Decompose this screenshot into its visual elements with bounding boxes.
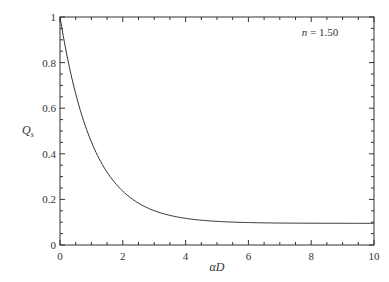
svg-text:0.8: 0.8 (42, 57, 56, 69)
svg-text:8: 8 (308, 250, 314, 262)
chart: 024681000.20.40.60.81 αD Qs n = 1.50 (0, 0, 389, 282)
svg-text:0: 0 (51, 239, 57, 251)
svg-text:6: 6 (246, 250, 252, 262)
svg-text:10: 10 (369, 250, 381, 262)
tick-labels: 024681000.20.40.60.81 (42, 11, 380, 262)
plot-frame (60, 17, 374, 245)
data-curve (60, 17, 374, 223)
svg-text:1: 1 (51, 11, 57, 23)
svg-text:4: 4 (183, 250, 189, 262)
svg-text:2: 2 (120, 250, 126, 262)
svg-text:0: 0 (57, 250, 63, 262)
y-axis-label: Qs (22, 123, 34, 139)
svg-text:0.6: 0.6 (42, 102, 56, 114)
annotation: n = 1.50 (302, 26, 339, 38)
x-axis-label: αD (210, 260, 225, 274)
axis-ticks (60, 17, 374, 245)
svg-text:0.4: 0.4 (42, 148, 56, 160)
svg-text:0.2: 0.2 (42, 193, 56, 205)
